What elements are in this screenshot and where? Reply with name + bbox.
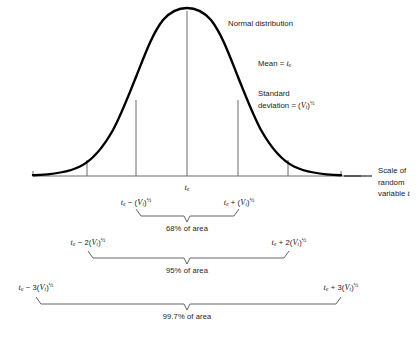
tick-label-mean: te (185, 183, 190, 194)
annotation-std-label: deviation = (258, 101, 298, 110)
tick-label-minus-2-sigma: te − 2(Vt)½ (71, 238, 106, 249)
brace-one-sigma (136, 209, 239, 222)
axis-caption: Scale of random variable t (378, 165, 410, 200)
area-label-two-sigma: 95% of area (166, 266, 208, 277)
annotation-std-line1: Standard (258, 88, 314, 100)
axis-caption-line2: random (378, 177, 410, 189)
area-label-one-sigma: 68% of area (166, 224, 208, 235)
annotation-normal-distribution-label: Normal distribution (228, 18, 293, 30)
annotation-standard-deviation: Standard deviation = (Vt)½ (258, 88, 314, 111)
tick-label-plus-3-sigma: te + 3(Vt)½ (324, 283, 359, 294)
tick-label-plus-1-sigma: te + (Vt)½ (224, 198, 255, 209)
tick-label-minus-3-sigma: te − 3(Vt)½ (19, 283, 54, 294)
tick-label-plus-2-sigma: te + 2(Vt)½ (272, 238, 307, 249)
normal-distribution-figure: Normal distribution Mean = te Standard d… (0, 0, 418, 339)
annotation-mean: Mean = te (258, 58, 291, 70)
annotation-std-value: (Vt)½ (298, 101, 314, 110)
annotation-mean-label: Mean = (258, 59, 286, 68)
axis-caption-line1: Scale of (378, 165, 410, 177)
tick-label-minus-1-sigma: te − (Vt)½ (121, 198, 152, 209)
axis-caption-line3: variable t (378, 188, 410, 200)
annotation-std-line2: deviation = (Vt)½ (258, 100, 314, 112)
brace-two-sigma (88, 251, 289, 264)
area-label-three-sigma: 99.7% of area (163, 312, 212, 323)
annotation-normal-distribution: Normal distribution (228, 18, 293, 30)
annotation-mean-variable: te (286, 59, 291, 68)
brace-three-sigma (36, 297, 341, 310)
